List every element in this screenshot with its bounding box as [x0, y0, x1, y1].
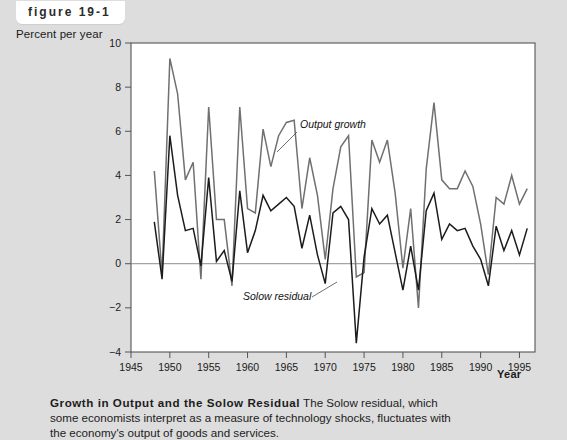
y-tick-label: 0	[115, 257, 121, 269]
x-tick-label: 1980	[391, 361, 415, 373]
x-tick-label: 1970	[314, 361, 338, 373]
x-tick-label: 1945	[119, 361, 143, 373]
caption-line-1: Growth in Output and the Solow Residual …	[50, 395, 520, 410]
figure-page: figure 19-1 Percent per year Year −4−202…	[0, 0, 567, 440]
caption-text-1: The Solow residual, which	[300, 396, 438, 409]
y-tick-label: 2	[115, 213, 121, 225]
x-tick-label: 1950	[158, 361, 182, 373]
y-tick-label: 6	[115, 125, 121, 137]
x-tick-label: 1960	[236, 361, 260, 373]
figure-caption: Growth in Output and the Solow Residual …	[50, 395, 520, 440]
caption-title: Growth in Output and the Solow Residual	[50, 396, 300, 409]
annotation-solow-residual: Solow residual	[243, 290, 312, 302]
x-tick-label: 1995	[508, 361, 532, 373]
caption-line-3: the economy's output of goods and servic…	[50, 425, 520, 440]
x-tick-label: 1965	[275, 361, 299, 373]
y-tick-label: −4	[109, 346, 121, 358]
line-chart-svg: −4−2024681019451950195519601965197019751…	[0, 0, 567, 380]
annotation-output-growth: Output growth	[300, 118, 366, 130]
x-tick-label: 1985	[430, 361, 454, 373]
y-tick-label: 8	[115, 81, 121, 93]
y-tick-label: −2	[109, 301, 121, 313]
x-tick-label: 1990	[469, 361, 493, 373]
y-tick-label: 10	[109, 37, 121, 49]
chart-area: −4−2024681019451950195519601965197019751…	[0, 0, 567, 380]
x-tick-label: 1975	[352, 361, 376, 373]
x-tick-label: 1955	[197, 361, 221, 373]
y-tick-label: 4	[115, 169, 121, 181]
caption-line-2: some economists interpret as a measure o…	[50, 410, 520, 425]
